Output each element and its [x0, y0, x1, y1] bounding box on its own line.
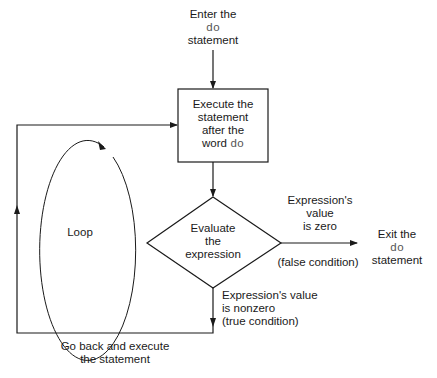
execute-line1: Execute the [178, 98, 268, 111]
true-branch-line1: Expression's value [222, 289, 318, 302]
evaluate-line3: expression [173, 248, 253, 261]
false-branch-label: Expression's value is zero [283, 194, 357, 233]
evaluate-line2: the [173, 235, 253, 248]
evaluate-node-label: Evaluate the expression [173, 222, 253, 261]
exit-keyword: do [362, 241, 432, 254]
execute-line2: statement [178, 111, 268, 124]
true-branch-arrowhead [210, 318, 216, 327]
evaluate-line1: Evaluate [173, 222, 253, 235]
false-branch-line1: Expression's [283, 194, 357, 207]
enter-node-label: Enter the do statement [173, 8, 253, 47]
enter-keyword: do [173, 21, 253, 34]
false-condition-label: (false condition) [272, 256, 364, 269]
false-branch-line2: value [283, 207, 357, 220]
exit-line1: Exit the [362, 228, 432, 241]
loop-back-arrowhead [14, 205, 20, 214]
loop-ellipse [40, 140, 136, 360]
exit-node-label: Exit the do statement [362, 228, 432, 267]
go-back-line2: the statement [40, 353, 190, 366]
execute-line3: after the [178, 124, 268, 137]
true-branch-line3: (true condition) [222, 315, 318, 328]
enter-line1: Enter the [173, 8, 253, 21]
false-condition-text: (false condition) [272, 256, 364, 269]
loop-text: Loop [55, 226, 105, 239]
loop-label: Loop [55, 226, 105, 239]
true-branch-label: Expression's value is nonzero (true cond… [222, 289, 318, 328]
go-back-label: Go back and execute the statement [40, 340, 190, 366]
execute-keyword: do [230, 137, 244, 150]
execute-node-label: Execute the statement after the word do [178, 98, 268, 150]
loop-ellipse-arrowhead [98, 141, 106, 150]
true-branch-line2: is nonzero [222, 302, 318, 315]
flowchart-canvas [0, 0, 437, 378]
execute-line4-prefix: word [202, 137, 227, 149]
exit-line3: statement [362, 254, 432, 267]
false-branch-line3: is zero [283, 220, 357, 233]
go-back-line1: Go back and execute [40, 340, 190, 353]
execute-line4: word do [178, 137, 268, 150]
enter-line3: statement [173, 34, 253, 47]
